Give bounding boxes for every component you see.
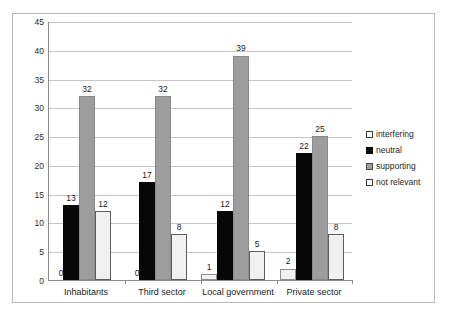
- legend-item-interfering[interactable]: interfering: [366, 126, 436, 142]
- bar-value-private-sector-interfering: 2: [280, 257, 296, 266]
- y-tick-40: 40: [35, 47, 44, 56]
- legend-swatch-not-relevant-icon: [366, 179, 373, 186]
- x-label-local-government: Local government: [200, 287, 276, 298]
- y-tick-15: 15: [35, 191, 44, 200]
- y-axis-tick-labels: 45 40 35 30 25 20 15 10 5 0: [20, 0, 44, 318]
- y-tick-5: 5: [39, 248, 44, 257]
- bar-private-sector-notrelevant[interactable]: [328, 234, 344, 280]
- bar-value-third-sector-interfering: 0: [129, 269, 145, 278]
- bar-group-private-sector: 2 22 25 8: [277, 22, 353, 280]
- legend-swatch-neutral-icon: [366, 147, 373, 154]
- bar-chart: 45 40 35 30 25 20 15 10 5 0 0: [0, 0, 449, 318]
- bar-local-government-interfering[interactable]: [201, 274, 217, 280]
- bar-value-local-government-supporting: 39: [233, 44, 249, 53]
- bar-value-inhabitants-neutral: 13: [63, 194, 79, 203]
- bar-third-sector-supporting[interactable]: [155, 96, 171, 280]
- bar-local-government-supporting[interactable]: [233, 56, 249, 281]
- bar-value-inhabitants-interfering: 0: [53, 269, 69, 278]
- bar-value-local-government-notrelevant: 5: [249, 240, 265, 249]
- bar-third-sector-neutral[interactable]: [139, 182, 155, 280]
- legend: interfering neutral supporting not relev…: [366, 126, 436, 190]
- y-tick-30: 30: [35, 104, 44, 113]
- y-tick-10: 10: [35, 219, 44, 228]
- legend-item-neutral[interactable]: neutral: [366, 142, 436, 158]
- bar-private-sector-interfering[interactable]: [280, 269, 296, 281]
- bar-value-inhabitants-supporting: 32: [79, 85, 95, 94]
- bar-group-local-government: 1 12 39 5: [201, 22, 277, 280]
- bar-value-private-sector-neutral: 22: [296, 142, 312, 151]
- bar-value-third-sector-supporting: 32: [155, 85, 171, 94]
- y-tick-35: 35: [35, 76, 44, 85]
- bar-local-government-neutral[interactable]: [217, 211, 233, 280]
- bar-inhabitants-notrelevant[interactable]: [95, 211, 111, 280]
- legend-swatch-supporting-icon: [366, 163, 373, 170]
- x-tick-4: [352, 280, 353, 284]
- bar-value-inhabitants-notrelevant: 12: [95, 200, 111, 209]
- bar-private-sector-neutral[interactable]: [296, 153, 312, 280]
- legend-swatch-interfering-icon: [366, 131, 373, 138]
- x-label-private-sector: Private sector: [276, 287, 352, 298]
- bar-value-local-government-interfering: 1: [201, 263, 217, 272]
- y-tick-0: 0: [39, 277, 44, 286]
- bar-group-inhabitants: 0 13 32 12: [49, 22, 125, 280]
- x-tick-1: [125, 280, 126, 284]
- bar-private-sector-supporting[interactable]: [312, 136, 328, 280]
- legend-item-not-relevant[interactable]: not relevant: [366, 174, 436, 190]
- bar-value-local-government-neutral: 12: [217, 200, 233, 209]
- y-tick-45: 45: [35, 18, 44, 27]
- y-tick-20: 20: [35, 162, 44, 171]
- bar-local-government-notrelevant[interactable]: [249, 251, 265, 280]
- legend-label-not-relevant: not relevant: [376, 178, 420, 187]
- bar-value-third-sector-neutral: 17: [139, 171, 155, 180]
- bar-value-private-sector-supporting: 25: [312, 125, 328, 134]
- bar-value-private-sector-notrelevant: 8: [328, 223, 344, 232]
- y-tick-25: 25: [35, 133, 44, 142]
- plot-area: 0 13 32 12 0 17 32 8 1 12 39 5: [48, 22, 352, 281]
- legend-label-neutral: neutral: [376, 146, 402, 155]
- bar-group-third-sector: 0 17 32 8: [125, 22, 201, 280]
- legend-label-supporting: supporting: [376, 162, 416, 171]
- x-tick-2: [201, 280, 202, 284]
- legend-label-interfering: interfering: [376, 130, 414, 139]
- x-axis-category-labels: Inhabitants Third sector Local governmen…: [0, 287, 449, 303]
- bar-inhabitants-supporting[interactable]: [79, 96, 95, 280]
- bar-third-sector-notrelevant[interactable]: [171, 234, 187, 280]
- x-tick-3: [277, 280, 278, 284]
- bar-value-third-sector-notrelevant: 8: [171, 223, 187, 232]
- x-label-inhabitants: Inhabitants: [48, 287, 124, 298]
- x-label-third-sector: Third sector: [124, 287, 200, 298]
- legend-item-supporting[interactable]: supporting: [366, 158, 436, 174]
